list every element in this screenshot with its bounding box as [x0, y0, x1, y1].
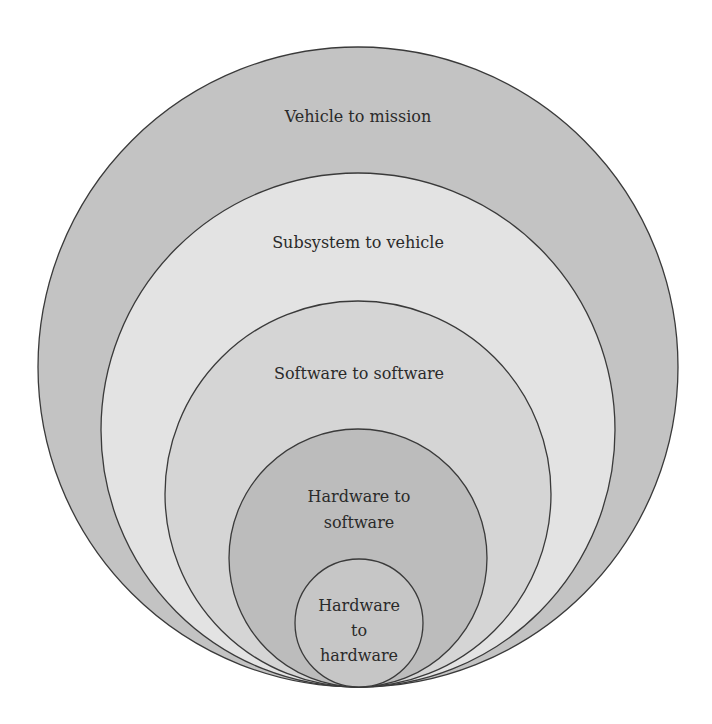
label-software-to-software: Software to software	[274, 364, 444, 383]
label-hardware-to-software-line2: software	[324, 513, 395, 532]
label-hardware-to-hardware-line3: hardware	[320, 646, 398, 665]
label-hardware-to-software-line1: Hardware to	[308, 487, 411, 506]
label-subsystem-to-vehicle: Subsystem to vehicle	[272, 233, 444, 252]
nested-circles-diagram: Vehicle to mission Subsystem to vehicle …	[0, 0, 712, 724]
label-hardware-to-hardware-line2: to	[351, 621, 367, 640]
label-vehicle-to-mission: Vehicle to mission	[284, 107, 432, 126]
label-hardware-to-hardware-line1: Hardware	[318, 596, 400, 615]
